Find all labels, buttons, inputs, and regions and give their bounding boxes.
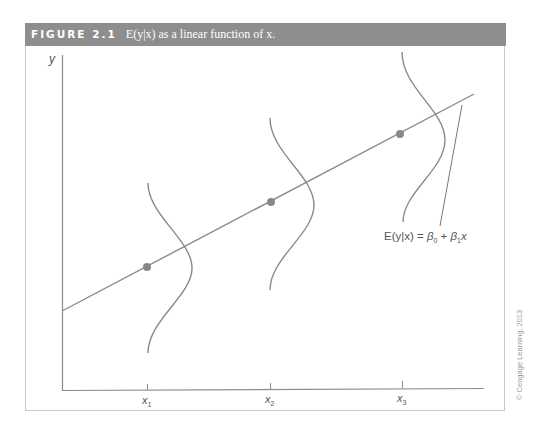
y-axis-label: y — [48, 52, 56, 66]
x-axis — [62, 389, 484, 391]
tick-label-x2: x2 — [264, 393, 275, 407]
density-curve-x1 — [148, 183, 192, 353]
mean-point-x2 — [267, 198, 275, 206]
tick-label-x3: x3 — [396, 392, 407, 406]
copyright-credit: © Cengage Learning, 2013 — [515, 310, 524, 400]
regression-equation-label: E(y|x) = β0 + β1x — [384, 230, 468, 244]
annotation-leader-line — [440, 105, 462, 226]
density-curve-x3 — [402, 52, 445, 222]
regression-plot: y x1 x2 x3 E(y|x) = β0 + β1x — [0, 0, 537, 432]
mean-point-x3 — [396, 130, 404, 138]
density-curve-x2 — [270, 118, 314, 290]
mean-point-x1 — [143, 263, 151, 271]
tick-label-x1: x1 — [141, 394, 152, 408]
